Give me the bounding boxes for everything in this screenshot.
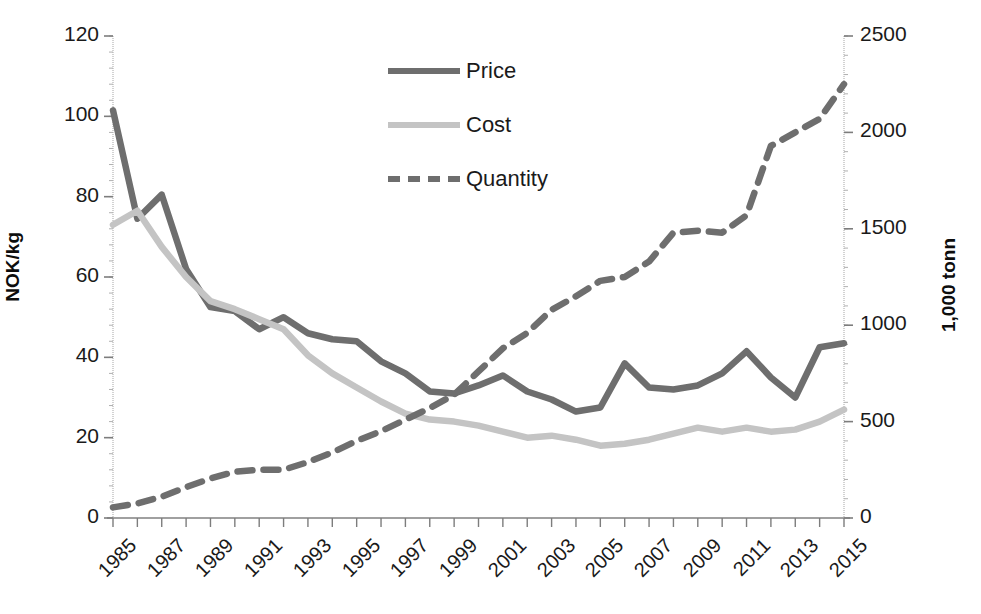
series-line-cost (113, 211, 844, 446)
legend-swatch-quantity-icon (388, 176, 460, 182)
plot-area (0, 0, 981, 614)
legend-item-quantity[interactable]: Quantity (388, 166, 548, 192)
legend-swatch-cost-icon (388, 122, 460, 128)
right-axis-tick-label: 1000 (860, 311, 907, 335)
series-line-price (113, 110, 844, 411)
legend-item-cost[interactable]: Cost (388, 112, 511, 138)
legend-swatch-price-icon (388, 68, 460, 74)
right-axis-tick-label: 2500 (860, 22, 907, 46)
left-axis-tick-label: 0 (87, 504, 99, 528)
right-axis-tick-label: 0 (860, 504, 872, 528)
left-axis-tick-label: 60 (76, 263, 99, 287)
left-axis-tick-label: 20 (76, 424, 99, 448)
left-axis-tick-label: 120 (64, 22, 99, 46)
legend-label: Quantity (466, 166, 548, 192)
legend-label: Price (466, 58, 516, 84)
left-axis-tick-label: 80 (76, 183, 99, 207)
left-axis-tick-label: 100 (64, 102, 99, 126)
left-axis-tick-label: 40 (76, 343, 99, 367)
right-axis-tick-label: 500 (860, 408, 895, 432)
right-axis-tick-label: 2000 (860, 118, 907, 142)
legend-item-price[interactable]: Price (388, 58, 516, 84)
right-axis-tick-label: 1500 (860, 215, 907, 239)
chart-figure: NOK/kg 1,000 tonn 0204060801001200500100… (0, 0, 981, 614)
series-line-quantity (113, 84, 844, 507)
legend-label: Cost (466, 112, 511, 138)
